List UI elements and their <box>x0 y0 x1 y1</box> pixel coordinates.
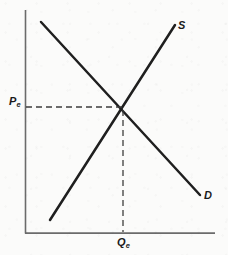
demand-curve-label: D <box>204 190 212 201</box>
equilibrium-price-subscript: e <box>16 100 20 109</box>
equilibrium-quantity-letter: Q <box>117 236 125 248</box>
supply-demand-figure: Pe Qe S D <box>0 0 228 255</box>
supply-curve-label: S <box>178 20 185 31</box>
plot-area <box>0 0 228 255</box>
equilibrium-quantity-label: Qe <box>117 237 129 248</box>
supply-curve <box>50 25 175 220</box>
equilibrium-quantity-subscript: e <box>126 241 130 250</box>
equilibrium-price-label: Pe <box>9 96 20 107</box>
